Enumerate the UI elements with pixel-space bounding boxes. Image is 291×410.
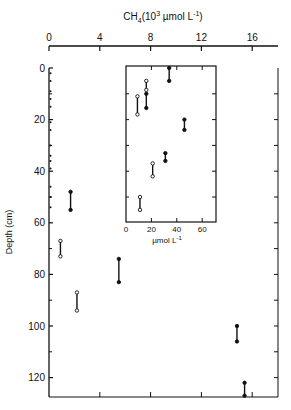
open-marker xyxy=(59,255,62,258)
filled-marker xyxy=(243,394,246,397)
inset-x-tick-label: 0 xyxy=(124,225,129,234)
open-marker xyxy=(145,88,148,91)
x-tick-label: 0 xyxy=(46,32,52,43)
filled-marker xyxy=(145,106,148,109)
filled-marker xyxy=(183,128,186,131)
y-tick-label: 80 xyxy=(34,269,46,280)
filled-marker xyxy=(117,257,120,260)
inset-x-label: µmol L-1 xyxy=(152,235,182,245)
x-tick-label: 8 xyxy=(148,32,154,43)
depth-profile-figure: 0481216 CH4(103 µmol L-1) 02040608010012… xyxy=(0,0,291,410)
filled-marker xyxy=(243,381,246,384)
x-tick-label: 4 xyxy=(97,32,103,43)
open-marker xyxy=(145,79,148,82)
inset-x-tick-label: 20 xyxy=(147,225,156,234)
inset-plot: 0204060µmol L-1 xyxy=(124,66,216,245)
filled-marker xyxy=(183,118,186,121)
filled-marker xyxy=(69,208,72,211)
y-tick-label: 60 xyxy=(34,217,46,228)
open-marker xyxy=(75,309,78,312)
open-marker xyxy=(136,95,139,98)
filled-marker xyxy=(164,151,167,154)
filled-marker xyxy=(145,92,148,95)
inset-x-tick-label: 40 xyxy=(172,225,181,234)
top-x-axis: 0481216 xyxy=(46,32,278,51)
x-tick-label: 16 xyxy=(247,32,259,43)
open-marker xyxy=(138,195,141,198)
filled-marker xyxy=(167,79,170,82)
filled-marker xyxy=(235,340,238,343)
y-tick-label: 40 xyxy=(34,166,46,177)
open-marker xyxy=(75,291,78,294)
y-tick-label: 100 xyxy=(28,321,45,332)
open-marker xyxy=(151,162,154,165)
filled-marker xyxy=(117,280,120,283)
filled-marker xyxy=(69,190,72,193)
y-tick-label: 20 xyxy=(34,114,46,125)
x-axis-label: CH4(103 µmol L-1) xyxy=(123,10,202,24)
y-tick-label: 120 xyxy=(28,372,45,383)
open-marker xyxy=(138,208,141,211)
filled-marker xyxy=(164,159,167,162)
open-marker xyxy=(151,175,154,178)
filled-marker xyxy=(167,66,170,69)
y-axis-label: Depth (cm) xyxy=(4,210,14,255)
open-marker xyxy=(136,113,139,116)
filled-marker xyxy=(235,324,238,327)
open-marker xyxy=(59,239,62,242)
y-tick-label: 0 xyxy=(39,63,45,74)
near-zero-markers xyxy=(50,72,52,208)
x-tick-label: 12 xyxy=(196,32,208,43)
inset-x-tick-label: 60 xyxy=(198,225,207,234)
